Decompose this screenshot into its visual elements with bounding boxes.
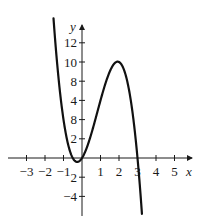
x-tick-label: 4 [153,164,160,179]
x-tick-label: −3 [20,164,34,179]
function-graph: −3−2−112345 121084822−4 x y [0,0,206,224]
x-tick-label: 1 [97,164,104,179]
y-tick-label: 2 [71,170,78,185]
x-tick-label: 2 [116,164,123,179]
y-tick-label: 4 [71,93,78,108]
y-tick-label: −4 [63,189,77,204]
x-tick-label: −2 [38,164,52,179]
x-tick-label: 5 [171,164,178,179]
x-axis-label: x [185,164,192,179]
y-tick-label: 12 [64,35,77,50]
x-tick-label: −1 [57,164,71,179]
x-axis-ticks: −3−2−112345 [20,155,178,179]
y-tick-label: 2 [71,131,78,146]
y-axis-label: y [68,19,76,34]
y-tick-label: 10 [64,55,77,70]
y-tick-label: 8 [71,112,78,127]
y-tick-label: 8 [71,74,78,89]
